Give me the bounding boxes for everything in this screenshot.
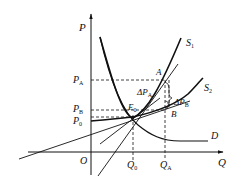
point-label-e0: E0 — [127, 102, 137, 113]
point-label-a: A — [155, 67, 162, 77]
origin-label: O — [80, 155, 87, 166]
y-axis-label: P — [78, 21, 86, 33]
x-axis-label: Q — [218, 156, 226, 168]
quantity-label-qa: QA — [160, 159, 172, 171]
price-label-pb: PB — [72, 103, 83, 115]
price-label-p0: P0 — [72, 115, 82, 127]
price-label-pa: PA — [72, 74, 84, 86]
supply-demand-diagram: P Q O PA PB P0 Q0 QA S1 S2 D E0 A B ΔPA … — [0, 0, 241, 185]
point-e0-dot — [132, 116, 135, 119]
supply-curve-s2 — [91, 78, 203, 121]
delta-label-pb: ΔPB — [173, 97, 189, 108]
point-label-b: B — [171, 109, 177, 119]
curve-label-s1: S1 — [186, 37, 194, 49]
quantity-label-q0: Q0 — [127, 159, 137, 171]
curve-label-s2: S2 — [204, 82, 212, 94]
delta-label-pa: ΔPA — [136, 87, 153, 98]
tangent-line-b — [19, 101, 190, 159]
curve-label-d: D — [210, 130, 219, 141]
